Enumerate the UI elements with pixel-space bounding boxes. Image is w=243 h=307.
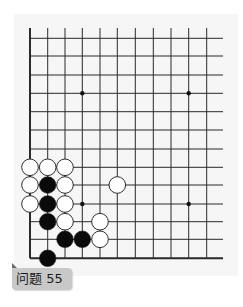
problem-label: 问题 55 [12,268,72,290]
white-stone [92,231,109,248]
go-board [0,0,243,307]
white-stone [57,159,74,176]
white-stone [39,159,56,176]
star-point [80,91,84,95]
white-stone [57,177,74,194]
white-stone [57,196,74,213]
white-stone [109,177,126,194]
star-point [80,202,84,206]
black-stone [57,231,74,248]
white-stone [92,213,109,230]
black-stone [74,231,91,248]
black-stone [39,177,56,194]
star-point [187,202,191,206]
white-stone [22,177,39,194]
black-stone [39,213,56,230]
white-stone [57,213,74,230]
white-stone [22,196,39,213]
stones [22,159,126,267]
white-stone [22,159,39,176]
black-stone [39,196,56,213]
black-stone [39,250,56,267]
star-point [187,91,191,95]
